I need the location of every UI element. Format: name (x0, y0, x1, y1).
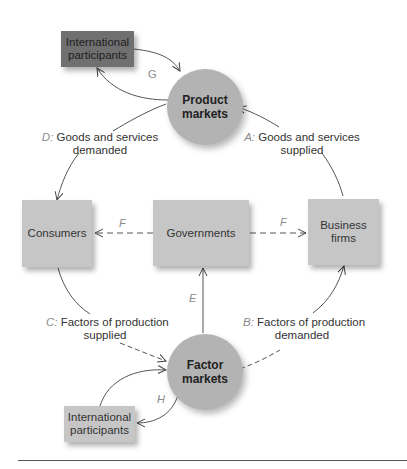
flow-a-line (238, 107, 279, 127)
flow-label-f-right: F (280, 216, 287, 228)
flow-b-line1: Factors of production (257, 316, 365, 328)
consumers-label: Consumers (28, 227, 87, 240)
flow-b-line2: demanded (243, 329, 361, 342)
flow-d-key: D: (42, 131, 54, 143)
factor-markets-line1: Factor (182, 358, 228, 372)
flow-label-e: E (189, 292, 196, 304)
business-firms-box: Business firms (308, 199, 379, 265)
consumers-box: Consumers (22, 200, 92, 267)
intl-top-line2: participants (66, 49, 129, 62)
governments-label: Governments (166, 227, 235, 240)
product-markets-line2: markets (182, 107, 228, 121)
bottom-divider (18, 460, 407, 461)
flow-label-g: G (148, 68, 157, 80)
flow-c-line1: Factors of production (61, 316, 169, 328)
international-participants-top-box: International participants (61, 31, 134, 67)
business-firms-line2: firms (320, 232, 367, 245)
business-firms-line1: Business (320, 219, 367, 232)
factor-markets-circle: Factor markets (167, 334, 243, 410)
intl-top-line1: International (66, 36, 129, 49)
flow-label-a: A: Goods and services supplied (243, 131, 361, 157)
flow-c-key: C: (46, 316, 58, 328)
intl-bottom-line1: International (68, 411, 131, 424)
flow-b-dash (240, 350, 280, 369)
factor-markets-line2: markets (182, 372, 228, 386)
flow-label-c: C: Factors of production supplied (46, 316, 164, 342)
flow-label-b: B: Factors of production demanded (243, 316, 361, 342)
intl-bottom-line2: participants (68, 424, 131, 437)
flow-g-in (134, 49, 180, 71)
product-markets-line1: Product (182, 93, 228, 107)
flow-d-arc (57, 153, 79, 200)
product-markets-circle: Product markets (167, 69, 243, 145)
flow-b-arc (313, 266, 344, 313)
flow-label-f-left: F (119, 217, 126, 229)
flow-b-key: B: (243, 316, 254, 328)
flow-d-line (113, 104, 166, 131)
flow-a-arc (322, 153, 343, 196)
flow-c-arc (58, 268, 90, 314)
international-participants-bottom-box: International participants (64, 406, 135, 442)
flow-d-line1: Goods and services (57, 131, 159, 143)
flow-g-out (97, 68, 168, 100)
flow-d-line2: demanded (40, 144, 160, 157)
flow-label-h: H (157, 393, 165, 405)
flow-label-d: D: Goods and services demanded (40, 131, 160, 157)
flow-c-dash (120, 343, 166, 361)
flow-a-line2: supplied (243, 144, 361, 157)
flow-a-line1: Goods and services (258, 131, 360, 143)
flow-c-line2: supplied (46, 329, 164, 342)
governments-box: Governments (153, 200, 249, 266)
flow-a-key: A: (244, 131, 255, 143)
